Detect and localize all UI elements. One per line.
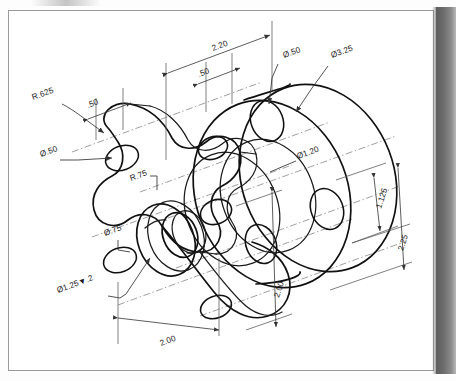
leader-dia50-left <box>60 158 112 160</box>
dim-label-2-00-bot: 2.00 <box>159 334 178 348</box>
leader-dia325 <box>296 66 328 112</box>
rear-disc-body <box>167 61 424 311</box>
dimension-2-25 <box>330 168 412 290</box>
dim-label-50-left: .50 <box>86 97 100 110</box>
dimension-50-left <box>88 88 131 140</box>
dim-label-dia125: Ø1.25▼.2 <box>56 273 95 295</box>
holes-front-plate <box>100 96 350 323</box>
dim-label-dia50-top: Ø.50 <box>282 45 302 60</box>
leader-dia50-top <box>269 64 278 104</box>
lower-lobe <box>162 226 290 318</box>
dim-label-50-top: .50 <box>197 66 211 79</box>
dimension-2-00-middle <box>236 190 292 330</box>
dim-label-r75: R.75 <box>129 168 149 183</box>
dim-label-dia50-left: Ø.50 <box>39 144 59 159</box>
leader-dia75 <box>118 240 130 252</box>
dim-label-dia325: Ø3.25 <box>330 44 355 60</box>
leader-r75 <box>150 176 157 190</box>
leader-dia125-counterbore <box>108 258 150 298</box>
dim-label-dia75: Ø.75 <box>103 223 123 238</box>
drawing-page: 2.20 .50 .50 R.625 Ø.50 R.75 Ø.50 Ø3.25 … <box>0 0 456 381</box>
isometric-drawing-canvas: 2.20 .50 .50 R.625 Ø.50 R.75 Ø.50 Ø3.25 … <box>0 0 456 381</box>
dim-label-1-125: 1.125 <box>374 187 389 210</box>
leader-r625 <box>62 104 104 133</box>
dim-label-2-20: 2.20 <box>211 39 230 53</box>
dim-label-dia120: Ø1.20 <box>296 145 321 161</box>
leader-dia120 <box>270 161 296 172</box>
dim-label-2-25: 2.25 <box>396 233 410 252</box>
dimension-2-00-bottom <box>118 258 219 344</box>
center-lines <box>72 82 404 316</box>
dim-label-r625: R.625 <box>31 86 55 102</box>
